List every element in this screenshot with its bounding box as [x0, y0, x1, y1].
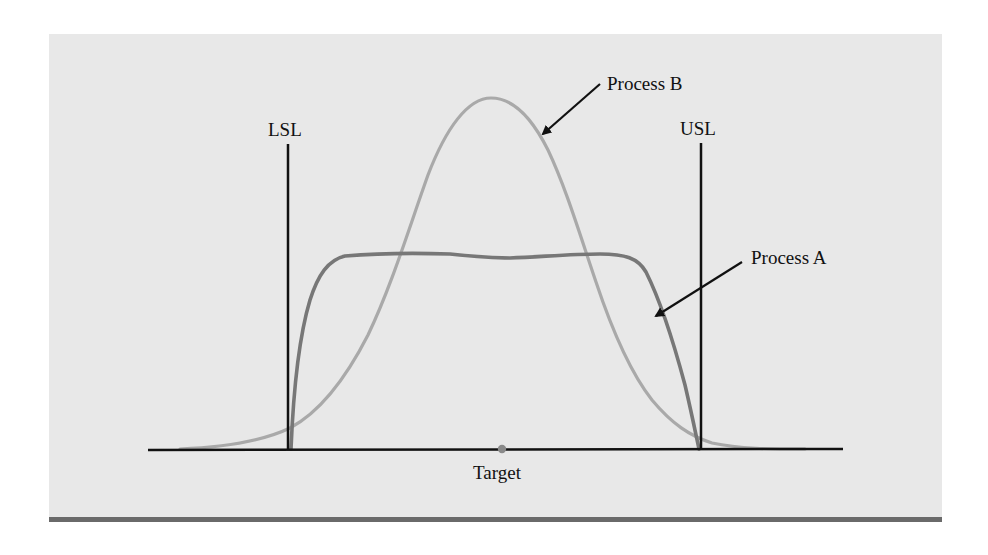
baseline-axis — [148, 449, 843, 450]
lsl-label: LSL — [268, 120, 302, 139]
process-b-label: Process B — [607, 74, 682, 93]
usl-label: USL — [680, 119, 716, 138]
target-marker — [498, 445, 506, 453]
process-a-arrow — [656, 262, 742, 316]
process-b-curve — [180, 98, 805, 449]
process-a-label: Process A — [751, 248, 826, 267]
process-b-arrow — [543, 84, 600, 134]
process-a-curve — [291, 253, 699, 449]
target-label: Target — [473, 463, 521, 482]
